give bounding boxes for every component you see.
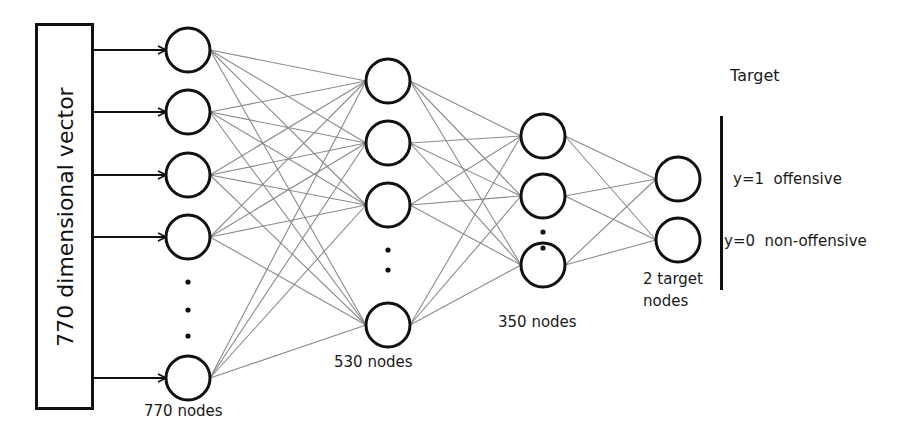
- input-layer-node: [166, 28, 210, 72]
- edge: [210, 50, 366, 81]
- ellipsis-dot: [185, 307, 190, 312]
- edge: [410, 143, 521, 196]
- input-vector-box: 770 dimensional vector: [35, 23, 94, 410]
- ellipsis-dot: [540, 229, 545, 234]
- edge: [410, 136, 521, 205]
- target-title: Target: [730, 66, 780, 85]
- edge: [410, 205, 521, 265]
- input-layer-node: [166, 153, 210, 197]
- hidden-layer-1-node: [366, 183, 410, 227]
- input-vector-label: 770 dimensional vector: [52, 87, 77, 346]
- edge: [410, 136, 521, 325]
- input-layer-node: [166, 215, 210, 259]
- ellipsis-dot: [540, 245, 545, 250]
- input-layer-node: [166, 90, 210, 134]
- edge: [565, 196, 656, 240]
- ellipsis-dot: [385, 267, 390, 272]
- edge: [210, 81, 366, 112]
- input-layer-node: [166, 356, 210, 400]
- output-layer-node: [656, 157, 700, 201]
- connection-edges: [210, 50, 656, 378]
- neuron-nodes: [166, 28, 700, 400]
- edge: [210, 205, 366, 237]
- edge: [410, 196, 521, 325]
- output-layer-node: [656, 218, 700, 262]
- edge: [210, 81, 366, 237]
- target-divider: [720, 116, 723, 290]
- hidden-layer-1-node: [366, 121, 410, 165]
- edge: [565, 136, 656, 179]
- hidden-layer-1-node: [366, 303, 410, 347]
- edge: [210, 143, 366, 237]
- target-class-non-offensive: y=0 non-offensive: [724, 232, 867, 250]
- layer-label-output: 2 target nodes: [643, 268, 703, 312]
- layer-label-hidden-2: 350 nodes: [498, 313, 577, 331]
- hidden-layer-2-node: [521, 114, 565, 158]
- input-arrows: [91, 50, 166, 378]
- edge: [210, 112, 366, 325]
- edge: [210, 143, 366, 378]
- layer-label-hidden-1: 530 nodes: [334, 353, 413, 371]
- edge: [210, 81, 366, 175]
- edge: [410, 81, 521, 196]
- target-class-offensive: y=1 offensive: [733, 170, 842, 188]
- edge: [410, 136, 521, 143]
- edge: [565, 179, 656, 196]
- edge: [210, 50, 366, 325]
- layer-label-input: 770 nodes: [144, 402, 223, 420]
- ellipsis-dot: [385, 247, 390, 252]
- hidden-layer-2-node: [521, 174, 565, 218]
- ellipsis-dot: [185, 333, 190, 338]
- hidden-layer-1-node: [366, 59, 410, 103]
- ellipsis-dot: [185, 279, 190, 284]
